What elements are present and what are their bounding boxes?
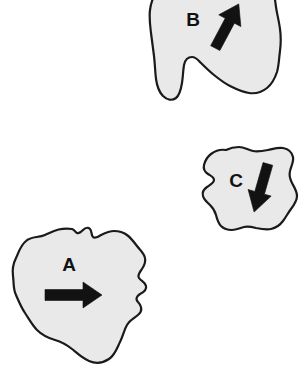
shape-a-label: A <box>62 254 76 275</box>
rock-fragment-diagram: B C A <box>0 0 308 382</box>
shape-c-label: C <box>229 170 243 191</box>
shape-c-group: C <box>203 147 297 230</box>
shape-c-outline <box>203 147 297 230</box>
shape-b-label: B <box>186 9 200 30</box>
fragment-diagram-canvas: B C A <box>0 0 308 382</box>
